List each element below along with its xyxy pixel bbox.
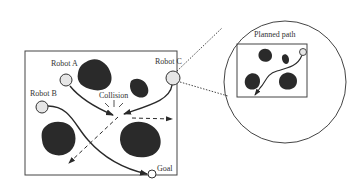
obstacle-top-small	[130, 79, 148, 98]
collision-label: Collision	[99, 91, 128, 100]
inset-workspace-frame	[237, 44, 307, 97]
inset-obstacle-1	[258, 49, 272, 62]
robot-a-label: Robot A	[51, 59, 78, 68]
obstacle-bottom-left	[42, 122, 76, 156]
dashed-arrow-right	[132, 118, 172, 119]
robot-b-label: Robot B	[30, 89, 57, 98]
goal-marker	[148, 170, 156, 178]
inset-obstacle-3	[245, 73, 260, 89]
diagram-canvas: Collision Robot A Robot B Robot C Goal P…	[0, 0, 358, 192]
inset-robot-c	[300, 49, 307, 56]
inset-obstacle-2	[282, 54, 289, 64]
obstacle-top-large	[78, 59, 112, 90]
goal-label: Goal	[157, 164, 173, 173]
obstacle-bottom-right	[120, 122, 161, 158]
robot-b	[36, 101, 48, 113]
collision-burst-icon	[105, 100, 123, 107]
planned-path-label: Planned path	[254, 30, 296, 39]
inset-obstacle-4	[279, 72, 297, 89]
robot-c	[166, 71, 180, 85]
callout-line-bottom	[180, 82, 228, 96]
robot-c-label: Robot C	[155, 57, 182, 66]
callout-line-top	[177, 28, 222, 71]
robot-a	[60, 74, 72, 86]
